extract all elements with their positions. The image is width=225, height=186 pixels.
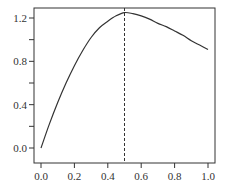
chart-canvas: 0.00.40.81.2 0.00.20.40.60.81.0 xyxy=(0,0,225,186)
x-tick-label: 1.0 xyxy=(201,170,215,182)
x-tick-label: 0.0 xyxy=(34,170,48,182)
x-axis: 0.00.20.40.60.81.0 xyxy=(34,163,215,182)
x-tick-label: 0.8 xyxy=(168,170,182,182)
x-tick-label: 0.6 xyxy=(134,170,148,182)
y-tick-label: 0.0 xyxy=(13,142,27,154)
x-tick-label: 0.2 xyxy=(68,170,82,182)
line-chart: 0.00.40.81.2 0.00.20.40.60.81.0 xyxy=(0,0,225,186)
y-axis: 0.00.40.81.2 xyxy=(13,12,34,154)
y-tick-label: 1.2 xyxy=(13,12,27,24)
y-tick-label: 0.4 xyxy=(13,99,27,111)
y-tick-label: 0.8 xyxy=(13,55,27,67)
x-tick-label: 0.4 xyxy=(101,170,115,182)
